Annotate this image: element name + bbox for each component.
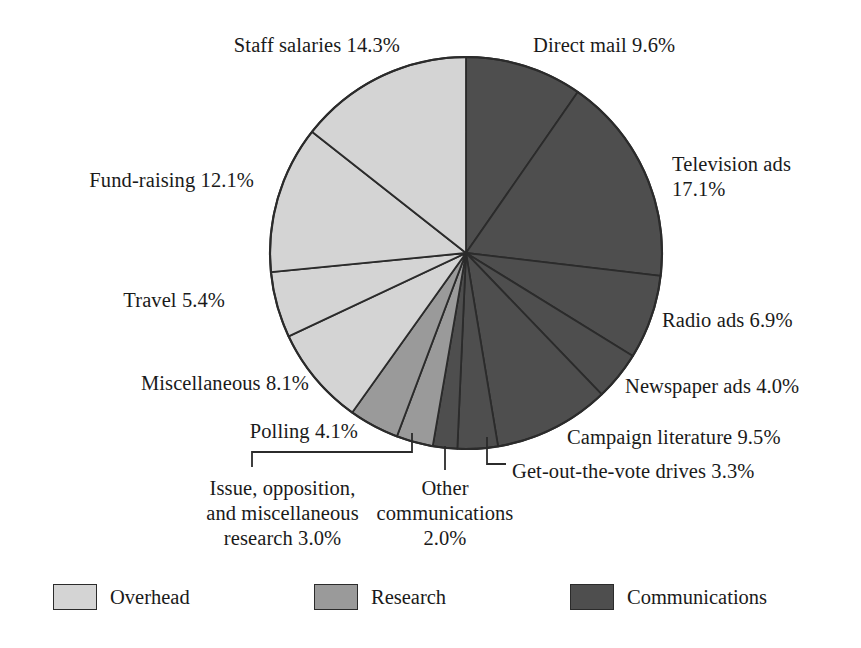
legend-swatch-research xyxy=(314,584,358,610)
slice-label-staff-salaries: Staff salaries 14.3% xyxy=(140,33,400,58)
slice-label-get-out-the-vote: Get-out-the-vote drives 3.3% xyxy=(512,459,754,484)
legend-swatch-overhead xyxy=(53,584,97,610)
slice-label-television-ads-line1: Television ads xyxy=(672,152,791,177)
legend-item-overhead: Overhead xyxy=(53,584,190,610)
slice-label-television-ads-line2: 17.1% xyxy=(672,177,725,202)
slice-label-radio-ads: Radio ads 6.9% xyxy=(662,308,793,333)
slice-label-direct-mail: Direct mail 9.6% xyxy=(533,33,675,58)
slice-label-campaign-literature: Campaign literature 9.5% xyxy=(567,425,781,450)
pie-chart: Staff salaries 14.3% Direct mail 9.6% Te… xyxy=(0,0,861,648)
legend-label-overhead: Overhead xyxy=(110,586,190,609)
slice-label-newspaper-ads: Newspaper ads 4.0% xyxy=(625,374,799,399)
slice-label-other-comms-line3: 2.0% xyxy=(355,526,535,551)
slice-label-travel: Travel 5.4% xyxy=(40,288,225,313)
pie-slices xyxy=(270,57,662,449)
slice-label-polling: Polling 4.1% xyxy=(130,419,358,444)
legend-label-research: Research xyxy=(371,586,446,609)
slice-label-other-comms-line1: Other xyxy=(355,476,535,501)
legend-swatch-communications xyxy=(570,584,614,610)
slice-label-fund-raising: Fund-raising 12.1% xyxy=(16,168,254,193)
legend-item-communications: Communications xyxy=(570,584,767,610)
legend-item-research: Research xyxy=(314,584,446,610)
slice-label-miscellaneous: Miscellaneous 8.1% xyxy=(22,371,309,396)
slice-label-other-comms-line2: communications xyxy=(355,501,535,526)
chart-legend: Overhead Research Communications xyxy=(0,570,861,630)
legend-label-communications: Communications xyxy=(627,586,767,609)
